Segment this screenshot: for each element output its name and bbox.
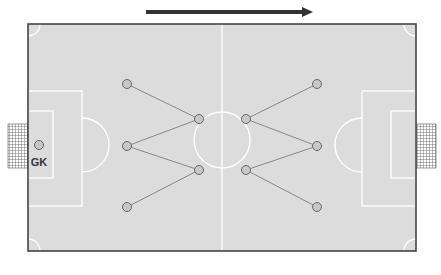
left-goal-net bbox=[8, 124, 28, 168]
right-goal-net bbox=[416, 124, 436, 168]
goalkeeper-marker bbox=[35, 141, 44, 150]
player-marker bbox=[313, 203, 322, 212]
player-marker bbox=[123, 203, 132, 212]
player-marker bbox=[123, 142, 132, 151]
player-marker bbox=[123, 80, 132, 89]
player-marker bbox=[313, 80, 322, 89]
player-marker bbox=[195, 115, 204, 124]
player-marker bbox=[242, 166, 251, 175]
goalkeeper-label: GK bbox=[31, 156, 48, 168]
direction-arrow bbox=[146, 7, 313, 17]
player-marker bbox=[242, 115, 251, 124]
player-marker bbox=[313, 142, 322, 151]
soccer-formation-diagram: GK bbox=[0, 0, 441, 275]
player-marker bbox=[195, 166, 204, 175]
